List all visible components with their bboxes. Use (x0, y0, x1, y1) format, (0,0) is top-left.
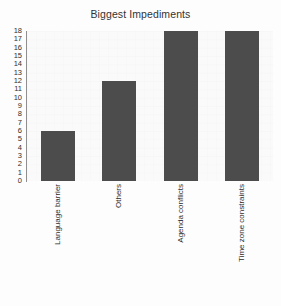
x-axis-tick-label: Others (115, 184, 123, 208)
x-axis-tick-label: Time zone constraints (238, 184, 246, 262)
bar-chart-figure: Biggest Impediments 18171615141312111098… (0, 0, 281, 306)
x-axis-category-labels: Language barrierOthersAgenda conflictsTi… (27, 184, 273, 304)
bar-slot (102, 31, 136, 181)
bar[interactable] (41, 131, 75, 181)
bar[interactable] (102, 81, 136, 181)
x-axis-label-slot: Agenda conflicts (150, 184, 212, 304)
bar[interactable] (225, 31, 259, 181)
y-axis-tick-label: 0 (18, 177, 22, 185)
x-axis-label-slot: Time zone constraints (212, 184, 274, 304)
x-axis-tick-label: Language barrier (54, 184, 62, 245)
plot-area (27, 31, 273, 181)
bar[interactable] (164, 31, 198, 181)
y-axis-tick-labels: 1817161514131211109876543210 (0, 31, 24, 181)
bar-slot (41, 31, 75, 181)
bar-slot (225, 31, 259, 181)
x-axis-label-slot: Language barrier (27, 184, 89, 304)
x-axis-label-slot: Others (89, 184, 151, 304)
bar-slot (164, 31, 198, 181)
chart-title: Biggest Impediments (0, 8, 281, 20)
x-axis-tick-label: Agenda conflicts (177, 184, 185, 243)
